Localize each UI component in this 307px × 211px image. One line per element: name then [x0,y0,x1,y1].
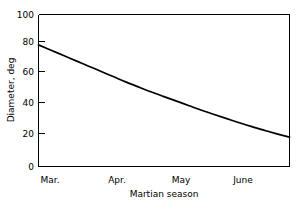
x-tick-label-mar: Mar. [40,175,59,185]
plot-frame [39,15,290,167]
x-tick-label-may: May [172,175,191,185]
x-tick-label-june: June [232,175,253,185]
y-tick-label-20: 20 [23,129,35,139]
y-tick-label-80: 80 [23,37,35,47]
x-axis-title: Martian season [130,189,199,199]
x-tick-label-apr: Apr. [108,175,126,185]
y-tick-label-60: 60 [23,67,35,77]
y-tick-label-40: 40 [23,98,35,108]
data-series-line [39,45,290,137]
y-axis-title: Diameter, deg [6,58,16,123]
chart-plot-area: 100 80 60 40 20 0 Diameter, deg Mar. Apr… [0,0,307,211]
chart-figure: 100 80 60 40 20 0 Diameter, deg Mar. Apr… [0,0,307,211]
y-tick-label-100: 100 [17,10,34,20]
y-tick-label-0: 0 [28,162,34,172]
